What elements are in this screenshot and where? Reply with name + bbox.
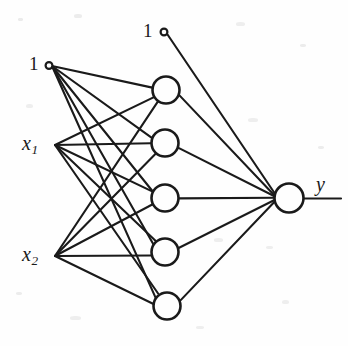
hidden-node-4[interactable]: [152, 239, 179, 266]
output-node-group: [275, 184, 342, 213]
neural-network-figure: 1 1 x1 x2 y: [0, 0, 348, 346]
edge-hidden-3-output: [179, 198, 275, 199]
input-x2-label: x2: [22, 244, 38, 267]
edge-input-x1-hidden-2: [55, 143, 151, 145]
hidden-node-2[interactable]: [152, 130, 179, 157]
edges-input-to-hidden: [52, 66, 158, 304]
bias-input-label: 1: [29, 54, 39, 73]
bias-input-node[interactable]: [46, 62, 53, 69]
output-y-label: y: [316, 174, 325, 194]
hidden-node-5[interactable]: [154, 293, 181, 320]
hidden-node-3[interactable]: [152, 185, 179, 212]
output-node[interactable]: [275, 184, 304, 213]
edge-hidden-1-output: [179, 95, 275, 196]
hidden-node-1[interactable]: [153, 77, 180, 104]
input-x1-label: x1: [22, 133, 38, 156]
edge-input-x2-hidden-3: [55, 204, 153, 256]
network-graphic: [0, 0, 348, 346]
edge-hidden-4-output: [179, 200, 275, 248]
edge-hidden-5-output: [180, 201, 275, 301]
bias-hidden-label: 1: [143, 21, 153, 40]
hidden-layer-nodes: [152, 77, 181, 320]
edges-hidden-to-output: [168, 35, 276, 301]
edge-input-x2-hidden-4: [55, 256, 151, 257]
bias-hidden-node[interactable]: [161, 29, 168, 36]
